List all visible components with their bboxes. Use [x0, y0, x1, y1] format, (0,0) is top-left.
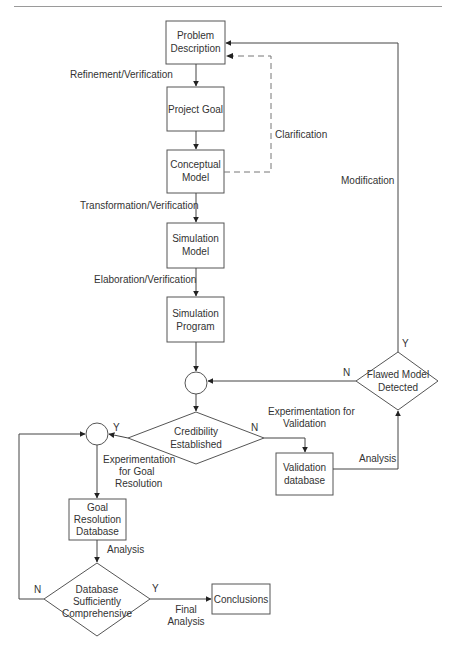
label-experimentation-goal-line-3: Resolution: [115, 478, 162, 489]
label-credibility-yes: Y: [113, 422, 120, 433]
label-flawed-yes: Y: [402, 338, 409, 349]
credibility-line-1: Credibility: [174, 426, 218, 437]
simulation-program-line-2: Program: [176, 321, 214, 332]
goal-resolution-line-3: Database: [76, 526, 119, 537]
conclusions-text: Conclusions: [214, 594, 268, 605]
simulation-model-line-1: Simulation: [172, 233, 219, 244]
goal-resolution-line-1: Goal: [87, 502, 108, 513]
simulation-flowchart: Problem Description Refinement/Verificat…: [0, 0, 459, 653]
project-goal-text: Project Goal: [168, 104, 223, 115]
clarification-arrowhead: [226, 53, 233, 59]
edge-flawed-yes-modification: [226, 43, 398, 352]
conceptual-model-line-1: Conceptual: [170, 159, 221, 170]
simulation-model-line-2: Model: [182, 246, 209, 257]
database-sufficiently-comprehensive-diamond: Database Sufficiently Comprehensive: [44, 563, 150, 636]
simulation-program-line-1: Simulation: [172, 308, 219, 319]
label-analysis-validation: Analysis: [359, 453, 396, 464]
label-flawed-no: N: [343, 367, 350, 378]
label-credibility-no: N: [251, 422, 258, 433]
validation-database-line-2: database: [284, 475, 326, 486]
flawed-model-line-1: Flawed Model: [367, 369, 429, 380]
conceptual-model-box: Conceptual Model: [167, 150, 224, 193]
validation-database-line-1: Validation: [283, 462, 326, 473]
label-refinement-verification: Refinement/Verification: [70, 69, 173, 80]
edge-credibility-yes-to-left-junction: [109, 434, 128, 438]
junction-circle-left: [86, 423, 108, 445]
conceptual-model-line-2: Model: [182, 172, 209, 183]
label-experimentation-validation-line-1: Experimentation for: [268, 406, 355, 417]
goal-resolution-database-box: Goal Resolution Database: [69, 499, 126, 540]
problem-description-line-1: Problem: [177, 30, 214, 41]
label-final-analysis-line-2: Analysis: [167, 616, 204, 627]
conclusions-box: Conclusions: [212, 584, 270, 614]
goal-resolution-line-2: Resolution: [74, 514, 121, 525]
problem-description-box: Problem Description: [166, 21, 225, 64]
flawed-model-detected-diamond: Flawed Model Detected: [356, 352, 438, 410]
label-modification: Modification: [341, 175, 394, 186]
label-experimentation-validation-line-2: Validation: [283, 418, 326, 429]
junction-circle-top: [185, 372, 207, 394]
label-experimentation-goal-line-2: for Goal: [119, 466, 155, 477]
simulation-model-box: Simulation Model: [167, 223, 224, 268]
project-goal-box: Project Goal: [167, 87, 224, 131]
label-elaboration-verification: Elaboration/Verification: [94, 274, 196, 285]
label-database-yes: Y: [152, 583, 159, 594]
edge-clarification-dashed: [224, 56, 271, 172]
database-check-line-1: Database: [76, 584, 119, 595]
problem-description-line-2: Description: [170, 43, 220, 54]
database-check-line-2: Sufficiently: [73, 596, 121, 607]
label-clarification: Clarification: [275, 129, 327, 140]
label-transformation-verification: Transformation/Verification: [80, 200, 199, 211]
simulation-program-box: Simulation Program: [167, 297, 224, 342]
label-database-no: N: [34, 584, 41, 595]
credibility-line-2: Established: [170, 439, 222, 450]
validation-database-box: Validation database: [276, 453, 333, 495]
database-check-line-3: Comprehensive: [62, 608, 132, 619]
flawed-model-line-2: Detected: [378, 382, 418, 393]
label-final-analysis-line-1: Final: [175, 604, 197, 615]
edge-credibility-no-to-validation: [264, 438, 305, 452]
label-experimentation-goal-line-1: Experimentation: [103, 454, 175, 465]
label-analysis-goal: Analysis: [107, 544, 144, 555]
